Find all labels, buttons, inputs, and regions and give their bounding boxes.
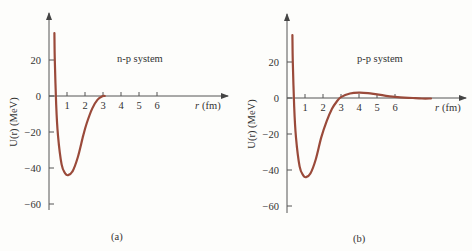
x-tick-label: 2 — [320, 102, 325, 113]
x-tick-label: 5 — [136, 100, 141, 111]
y-axis-label: U(r) (MeV) — [8, 97, 20, 147]
x-axis-label: r(fm) — [195, 100, 221, 112]
x-tick-label: 3 — [338, 102, 343, 113]
y-ticks: 200−20−40−60 — [25, 55, 54, 210]
x-tick-label: 6 — [154, 100, 159, 111]
chart-title: p-p system — [357, 53, 403, 64]
y-axis-label: U(r) (MeV) — [246, 99, 258, 149]
x-ticks: 123456 — [64, 92, 159, 111]
x-tick-label: 3 — [100, 100, 105, 111]
y-tick-label: −60 — [263, 201, 279, 212]
x-tick-label: 4 — [118, 100, 124, 111]
x-tick-label: 6 — [392, 102, 397, 113]
chart-title: n-p system — [117, 53, 163, 64]
x-axis-label: r(fm) — [435, 102, 461, 114]
y-tick-label: −40 — [25, 163, 41, 174]
figure: 123456 200−20−40−60 n-p system r(fm) U(r… — [0, 0, 472, 251]
y-tick-label: 20 — [269, 57, 280, 68]
x-tick-label: 5 — [374, 102, 379, 113]
y-tick-label: −40 — [263, 165, 279, 176]
y-tick-label: −20 — [263, 129, 279, 140]
x-ticks: 123456 — [302, 94, 397, 113]
panel-caption: (a) — [111, 231, 123, 243]
y-ticks: 200−20−40−60 — [263, 57, 292, 212]
chart-panel-b: 123456 200−20−40−60 p-p system r(fm) U(r… — [246, 14, 466, 245]
x-tick-label: 1 — [302, 102, 307, 113]
chart-panel-a: 123456 200−20−40−60 n-p system r(fm) U(r… — [8, 13, 228, 243]
x-tick-label: 1 — [64, 100, 69, 111]
potential-curve — [54, 33, 104, 175]
y-tick-label: −20 — [25, 127, 41, 138]
y-tick-label: 20 — [31, 55, 42, 66]
y-tick-label: −60 — [25, 199, 41, 210]
x-tick-label: 4 — [356, 102, 362, 113]
panel-caption: (b) — [353, 233, 366, 245]
x-tick-label: 2 — [82, 100, 87, 111]
y-tick-label: 0 — [36, 91, 41, 102]
y-tick-label: 0 — [274, 93, 279, 104]
